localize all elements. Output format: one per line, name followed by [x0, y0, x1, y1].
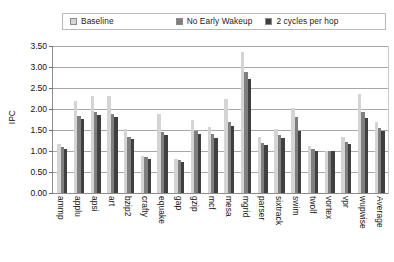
x-axis-tick-label: ammp	[56, 196, 66, 220]
bar-group	[104, 46, 121, 193]
legend-swatch-icon-2-cycles-per-hop	[265, 18, 272, 25]
plot-area: 0.000.501.001.502.002.503.003.50	[52, 46, 389, 194]
legend-label-no-early-wakeup: No Early Wakeup	[187, 17, 253, 25]
x-axis-tick-label: apsi	[90, 196, 100, 212]
bar-group	[305, 46, 322, 193]
bar	[198, 134, 201, 193]
x-axis-tick-label: parser	[257, 196, 267, 220]
bar-group	[138, 46, 155, 193]
x-axis-label-cell: Average	[371, 196, 388, 260]
bar	[97, 115, 100, 193]
y-axis-tick-label: 0.00	[30, 188, 47, 198]
x-axis-label-cell: gzip	[187, 196, 204, 260]
x-axis-tick-label: mesa	[224, 196, 234, 217]
bar-group	[171, 46, 188, 193]
bar-group	[271, 46, 288, 193]
bar-group	[254, 46, 271, 193]
chart-legend: Baseline No Early Wakeup 2 cycles per ho…	[62, 13, 386, 30]
x-axis-label-cell: mcf	[204, 196, 221, 260]
bar	[365, 118, 368, 193]
x-axis-label-cell: apsi	[87, 196, 104, 260]
x-axis-label-cell: applu	[70, 196, 87, 260]
bar	[181, 162, 184, 193]
x-axis-label-cell: swim	[288, 196, 305, 260]
bar	[248, 79, 251, 193]
y-axis-title: IPC	[7, 110, 17, 124]
x-axis-tick-label: applu	[73, 196, 83, 217]
bars-layer	[54, 46, 388, 193]
x-axis-tick-label: swim	[291, 196, 301, 215]
y-axis-tick-label: 3.50	[30, 41, 47, 51]
bar-group	[338, 46, 355, 193]
y-axis-tick-mark	[49, 109, 53, 110]
bar-group	[221, 46, 238, 193]
bar-group	[371, 46, 388, 193]
bar	[331, 151, 334, 193]
y-axis-tick-mark	[49, 130, 53, 131]
y-axis-tick-label: 2.50	[30, 83, 47, 93]
x-axis-label-cell: gap	[170, 196, 187, 260]
bar-group	[154, 46, 171, 193]
y-axis-tick-mark	[49, 172, 53, 173]
x-axis-label-cell: twolf	[304, 196, 321, 260]
x-axis-tick-label: mgrid	[241, 196, 251, 217]
x-axis-label-cell: mgrid	[237, 196, 254, 260]
x-axis-tick-label: vpr	[341, 196, 351, 208]
bar	[64, 149, 67, 193]
bar-group	[188, 46, 205, 193]
y-axis-tick-label: 1.00	[30, 146, 47, 156]
bar-group	[71, 46, 88, 193]
bar	[114, 117, 117, 193]
x-axis-tick-label: art	[107, 196, 117, 206]
x-axis-label-cell: bzip2	[120, 196, 137, 260]
x-axis-tick-label: sixtrack	[274, 196, 284, 225]
x-axis-tick-label: wupwise	[358, 196, 368, 229]
bar-group	[238, 46, 255, 193]
legend-entry-baseline: Baseline	[70, 17, 114, 25]
x-axis-label-cell: parser	[254, 196, 271, 260]
bar	[381, 131, 384, 193]
bar	[164, 135, 167, 193]
x-axis-tick-label: crafty	[140, 196, 150, 217]
y-axis-tick-mark	[49, 46, 53, 47]
bar-chart: Baseline No Early Wakeup 2 cycles per ho…	[0, 0, 394, 262]
bar	[148, 159, 151, 193]
legend-label-baseline: Baseline	[81, 17, 114, 25]
bar	[81, 119, 84, 193]
y-axis-tick-label: 3.00	[30, 62, 47, 72]
bar-group	[204, 46, 221, 193]
x-axis-tick-label: mcf	[207, 196, 217, 210]
y-axis-tick-label: 1.50	[30, 125, 47, 135]
bar	[348, 144, 351, 193]
x-axis-labels: ammpappluapsiartbzip2craftyequakegapgzip…	[53, 196, 388, 260]
x-axis-label-cell: equake	[154, 196, 171, 260]
x-axis-label-cell: vortex	[321, 196, 338, 260]
y-axis-tick-mark	[49, 88, 53, 89]
x-axis-label-cell: ammp	[53, 196, 70, 260]
bar	[298, 131, 301, 193]
y-axis-tick-label: 0.50	[30, 167, 47, 177]
y-axis-tick-mark	[49, 67, 53, 68]
legend-swatch-icon-baseline	[70, 18, 77, 25]
y-axis-tick-mark	[49, 193, 53, 194]
x-axis-tick-label: twolf	[308, 196, 318, 214]
bar-group	[54, 46, 71, 193]
x-axis-tick-label: gap	[174, 196, 184, 210]
bar-group	[355, 46, 372, 193]
x-axis-tick-label: Average	[375, 196, 385, 228]
bar	[131, 139, 134, 193]
bar	[281, 138, 284, 193]
x-axis-label-cell: wupwise	[355, 196, 372, 260]
x-axis-tick-label: equake	[157, 196, 167, 224]
x-axis-tick-label: vortex	[324, 196, 334, 219]
legend-label-2-cycles-per-hop: 2 cycles per hop	[276, 17, 338, 25]
y-axis-tick-label: 2.00	[30, 104, 47, 114]
bar-group	[321, 46, 338, 193]
bar-group	[288, 46, 305, 193]
bar	[214, 138, 217, 193]
x-axis-label-cell: vpr	[338, 196, 355, 260]
x-axis-tick-label: bzip2	[123, 196, 133, 217]
bar-group	[121, 46, 138, 193]
legend-entry-no-early-wakeup: No Early Wakeup	[176, 17, 253, 25]
legend-swatch-icon-no-early-wakeup	[176, 18, 183, 25]
